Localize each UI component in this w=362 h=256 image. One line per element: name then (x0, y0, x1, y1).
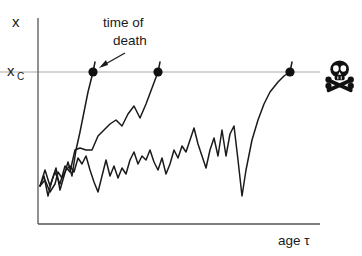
threshold-label-subscript: C (17, 71, 24, 82)
chart-background (0, 0, 362, 256)
death-dot-marker (153, 67, 162, 76)
death-dot-marker (88, 67, 97, 76)
damage-trajectory-chart: time of death x x C age τ (0, 0, 362, 256)
death-dot-marker (285, 67, 294, 76)
threshold-label-base: x (7, 62, 15, 79)
y-axis-label: x (12, 13, 20, 30)
figure-canvas: time of death x x C age τ (0, 0, 362, 256)
annotation-line-1: time of (103, 15, 144, 30)
annotation-line-2: death (113, 33, 147, 48)
x-axis-label: age τ (278, 233, 310, 248)
